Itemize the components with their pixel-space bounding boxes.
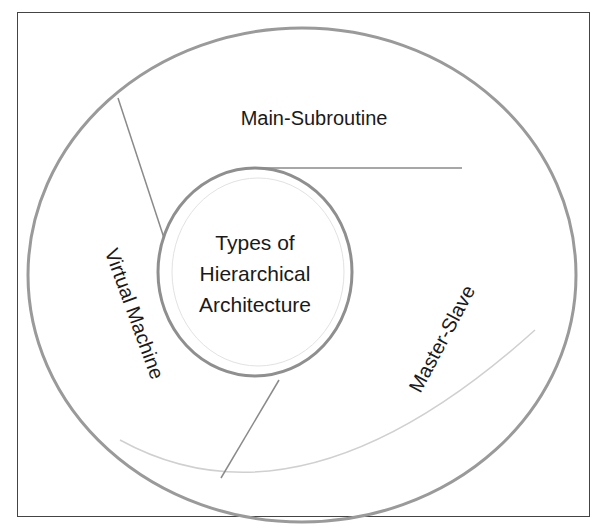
outer-circle-shadow xyxy=(120,330,535,472)
center-label-line-3: Architecture xyxy=(199,293,311,316)
hierarchy-diagram: Types of Hierarchical Architecture Main-… xyxy=(0,0,602,531)
segment-label-master-slave: Master-Slave xyxy=(404,282,479,396)
divider-line-virtual-main xyxy=(118,98,164,238)
segment-label-main-subroutine: Main-Subroutine xyxy=(241,107,388,129)
divider-line-master-virtual xyxy=(221,380,279,478)
center-label-line-2: Hierarchical xyxy=(200,262,311,285)
center-label-line-1: Types of xyxy=(215,231,295,254)
